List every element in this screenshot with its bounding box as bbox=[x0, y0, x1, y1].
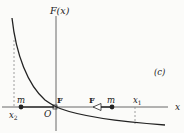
force-curve bbox=[12, 18, 165, 125]
mass-left bbox=[19, 105, 24, 110]
mass-right-label: m bbox=[107, 95, 115, 105]
panel-label: (c) bbox=[154, 67, 165, 77]
x-axis-label: x bbox=[175, 102, 180, 112]
force-left-label: F bbox=[57, 95, 63, 105]
origin-label: O bbox=[44, 109, 52, 119]
force-diagram: F(x) x (c) O m F F m x2 x1 bbox=[0, 0, 184, 133]
mass-right bbox=[110, 105, 115, 110]
x2-label: x2 bbox=[9, 110, 18, 121]
force-right-label: F bbox=[89, 95, 95, 105]
mass-left-label: m bbox=[17, 95, 25, 105]
x1-label: x1 bbox=[133, 95, 142, 106]
y-axis-label: F(x) bbox=[49, 5, 70, 16]
